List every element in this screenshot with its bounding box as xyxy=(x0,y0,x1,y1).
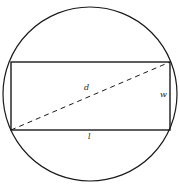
circumscribed-circle xyxy=(3,7,177,181)
label-width: w xyxy=(160,90,167,99)
label-length: l xyxy=(88,132,91,141)
diagram-canvas: d w l xyxy=(0,0,179,185)
diagonal-line xyxy=(11,62,170,130)
label-diagonal: d xyxy=(84,83,89,92)
